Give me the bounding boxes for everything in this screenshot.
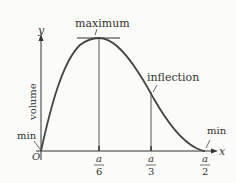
min-right-label: min — [207, 125, 227, 136]
svg-text:6: 6 — [96, 166, 102, 177]
min-right-pointer — [206, 140, 210, 148]
volume-label: volume — [27, 83, 38, 121]
tick-label-a6: a 6 — [94, 153, 104, 177]
maximum-label: maximum — [75, 17, 130, 30]
inflection-label: inflection — [147, 71, 199, 84]
origin-label: O — [32, 151, 40, 162]
volume-curve — [41, 38, 205, 151]
volume-diagram: maximum inflection min min y x O volume … — [0, 0, 236, 183]
svg-text:a: a — [148, 153, 154, 164]
x-axis-label: x — [219, 145, 226, 158]
tick-label-a3: a 3 — [146, 153, 156, 177]
tick-label-a2: a 2 — [200, 153, 210, 177]
axes — [36, 34, 218, 160]
svg-text:3: 3 — [148, 166, 154, 177]
min-left-pointer — [34, 141, 40, 149]
inflection-pointer — [153, 85, 157, 92]
y-axis-label: y — [37, 24, 45, 37]
svg-text:a: a — [202, 153, 208, 164]
svg-text:a: a — [96, 153, 102, 164]
svg-text:2: 2 — [202, 166, 208, 177]
min-left-label: min — [17, 130, 37, 141]
x-axis-arrow-icon — [211, 149, 218, 154]
